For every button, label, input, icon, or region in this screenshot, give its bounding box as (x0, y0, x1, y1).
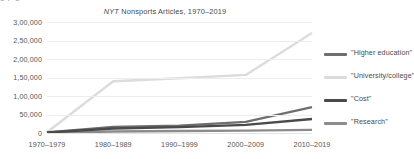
gridline (47, 22, 312, 23)
gridline (47, 59, 312, 60)
legend-item[interactable]: "Cost" (322, 94, 414, 117)
chart-title-italic-prefix: NYT (104, 7, 119, 16)
chart-legend: "Higher education""University/college""C… (322, 48, 414, 140)
legend-color-swatch (324, 53, 347, 56)
x-axis-tick-label: 1990–1999 (150, 140, 210, 149)
x-axis-tick-label: 1980–1989 (83, 140, 143, 149)
clipped-overflow-text: g p g (0, 0, 414, 3)
plot-area (47, 22, 312, 133)
gridline (47, 115, 312, 116)
gridline (47, 41, 312, 42)
legend-item-label: "Higher education" (351, 48, 412, 57)
series-line (47, 107, 312, 132)
series-line (47, 33, 312, 132)
chart-title: NYT Nonsports Articles, 1970–2019 (0, 7, 330, 16)
legend-item-label: "Research" (351, 117, 388, 126)
gridline (47, 78, 312, 79)
y-axis-tick-label: 1,00,000 (2, 92, 42, 101)
legend-item[interactable]: "Research" (322, 117, 414, 140)
x-axis-tick-label: 2010–2019 (282, 140, 342, 149)
legend-item-label: "Cost" (351, 94, 371, 103)
chart-title-rest: Nonsports Articles, 1970–2019 (119, 7, 226, 16)
gridline (47, 96, 312, 97)
legend-color-swatch (324, 99, 347, 102)
y-axis-tick-label: 1,50,000 (2, 73, 42, 82)
legend-item[interactable]: "University/college" (322, 71, 414, 94)
x-axis-tick-label: 2000–2009 (216, 140, 276, 149)
y-axis-tick-label: 3,00,000 (2, 18, 42, 27)
y-axis-tick-label: 2,00,000 (2, 55, 42, 64)
y-axis-tick-label: 50,000 (2, 110, 42, 119)
gridline (47, 133, 312, 134)
legend-item-label: "University/college" (351, 71, 414, 80)
legend-color-swatch (324, 76, 347, 79)
y-axis-tick-label: 0 (2, 129, 42, 138)
legend-color-swatch (324, 122, 347, 125)
y-axis-tick-label: 2,50,000 (2, 36, 42, 45)
x-axis-tick-label: 1970–1979 (17, 140, 77, 149)
line-chart: g p g NYT Nonsports Articles, 1970–2019 … (0, 0, 414, 159)
legend-item[interactable]: "Higher education" (322, 48, 414, 71)
